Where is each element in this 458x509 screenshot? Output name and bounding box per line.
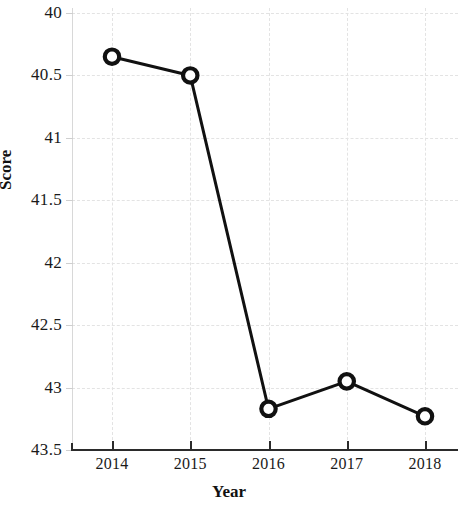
x-axis-title: Year [0,482,458,502]
data-point-marker [183,68,197,82]
score-line [112,57,425,417]
data-point-marker [261,402,275,416]
data-point-marker [105,50,119,64]
y-axis-title: Score [0,150,16,190]
line-chart: 4040.54141.54242.54343.5 201420152016201… [0,0,458,509]
data-point-marker [340,374,354,388]
series-layer [0,0,458,509]
data-point-marker [418,409,432,423]
score-markers [105,50,432,424]
